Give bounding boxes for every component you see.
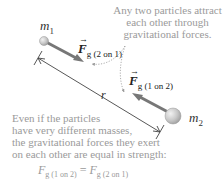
vector-arrow-icon: → <box>79 34 88 44</box>
distance-label: r <box>101 88 106 103</box>
particle-m1 <box>40 37 49 46</box>
force-label-2-on-1: → Fg (2 on 1) <box>78 41 122 59</box>
force-label-1-on-2: → Fg (1 on 2) <box>129 73 173 91</box>
callout-attraction: Any two particles attract each other thr… <box>112 4 223 40</box>
callout-equal-strength: Even if the particles have very differen… <box>12 112 172 160</box>
mass-label-m1: m1 <box>40 18 54 36</box>
mass-label-m2: m2 <box>189 110 203 128</box>
vector-arrow-icon: → <box>130 66 139 76</box>
force-arrow-1-on-2 <box>132 93 168 112</box>
equal-force-equation: Fg (1 on 2) = Fg (2 on 1) <box>38 163 128 179</box>
